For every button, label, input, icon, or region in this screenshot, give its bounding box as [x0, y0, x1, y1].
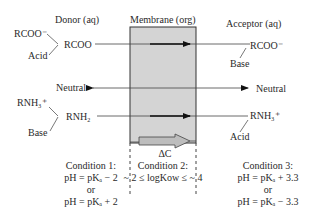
acceptor-rcoo-ion: RCOO⁻ — [250, 40, 283, 51]
acceptor-header: Acceptor (aq) — [226, 18, 281, 29]
acceptor-rnh3-ion: RNH₃⁺ — [250, 110, 280, 121]
condition-1-line2: pH = pKₐ + 2 — [52, 196, 130, 207]
condition-3-line2: pH = pKₐ − 3.3 — [226, 196, 309, 207]
condition-1-title: Condition 1: — [56, 160, 126, 171]
donor-rnh3-ion: RNH₃⁺ — [17, 97, 47, 108]
membrane-header: Membrane (org) — [130, 14, 196, 25]
donor-rcoo-ion: RCOO⁻ — [14, 28, 47, 39]
donor-header: Donor (aq) — [55, 14, 99, 25]
condition-2-line1: ~ 2 ≤ logKow ≤ ~ 4 — [120, 172, 206, 183]
acceptor-neutral: Neutral — [256, 83, 286, 94]
donor-rcoo: RCOO — [64, 39, 92, 50]
condition-1-line1: pH = pKₐ − 2 — [52, 172, 130, 183]
condition-3-line1: pH = pKₐ + 3.3 — [226, 172, 309, 183]
delta-c-label: ΔC — [150, 148, 180, 159]
condition-2-title: Condition 2: — [128, 160, 198, 171]
condition-1-or: or — [56, 184, 126, 195]
condition-3-or: or — [230, 184, 306, 195]
donor-neutral: Neutral — [56, 82, 86, 93]
donor-rnh2: RNH₂ — [66, 111, 91, 122]
donor-acid: Acid — [28, 50, 47, 61]
donor-base: Base — [28, 127, 47, 138]
acceptor-acid: Acid — [230, 131, 249, 142]
acceptor-base: Base — [230, 58, 249, 69]
condition-3-title: Condition 3: — [230, 160, 306, 171]
